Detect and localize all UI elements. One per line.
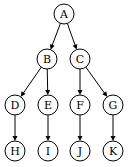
node-label: C (76, 53, 84, 66)
node-label: E (44, 99, 52, 112)
node-label: G (109, 99, 118, 112)
node-k: K (103, 141, 123, 161)
edge-a-b (50, 23, 61, 49)
node-label: A (59, 8, 69, 21)
node-c: C (70, 49, 90, 69)
edges-layer (13, 23, 116, 141)
edge-a-c (67, 23, 77, 49)
arrowhead-icon (78, 136, 83, 141)
edge-g-k (111, 115, 116, 141)
node-f: F (70, 95, 90, 115)
node-label: D (11, 99, 20, 112)
node-label: B (43, 53, 51, 66)
arrowhead-icon (111, 136, 116, 141)
node-i: I (38, 141, 58, 161)
edge-line (67, 23, 75, 46)
arrowhead-icon (21, 91, 26, 97)
node-h: H (5, 141, 25, 161)
arrowhead-icon (78, 90, 83, 95)
node-a: A (54, 4, 74, 24)
node-label: J (77, 145, 82, 158)
node-label: I (46, 145, 50, 158)
arrowhead-icon (13, 136, 18, 141)
arrowhead-icon (45, 90, 50, 95)
edge-c-g (86, 67, 107, 97)
arrowhead-icon (102, 91, 107, 97)
node-d: D (5, 95, 25, 115)
node-label: H (10, 145, 20, 158)
edge-f-j (78, 115, 83, 141)
edge-e-i (46, 115, 51, 141)
nodes-layer: ABCDEFGHIJK (5, 4, 123, 161)
edge-line (47, 69, 48, 92)
node-b: B (37, 49, 57, 69)
node-e: E (38, 95, 58, 115)
edge-d-h (13, 115, 18, 141)
node-g: G (103, 95, 123, 115)
tree-diagram: ABCDEFGHIJK (0, 0, 129, 167)
node-label: F (76, 99, 84, 112)
edge-line (86, 67, 106, 94)
edge-b-e (45, 69, 50, 95)
edge-b-d (21, 67, 42, 97)
node-j: J (70, 141, 90, 161)
edge-line (22, 67, 41, 94)
edge-line (52, 23, 61, 46)
edge-c-f (78, 69, 83, 95)
arrowhead-icon (46, 136, 51, 141)
node-label: K (109, 145, 118, 158)
